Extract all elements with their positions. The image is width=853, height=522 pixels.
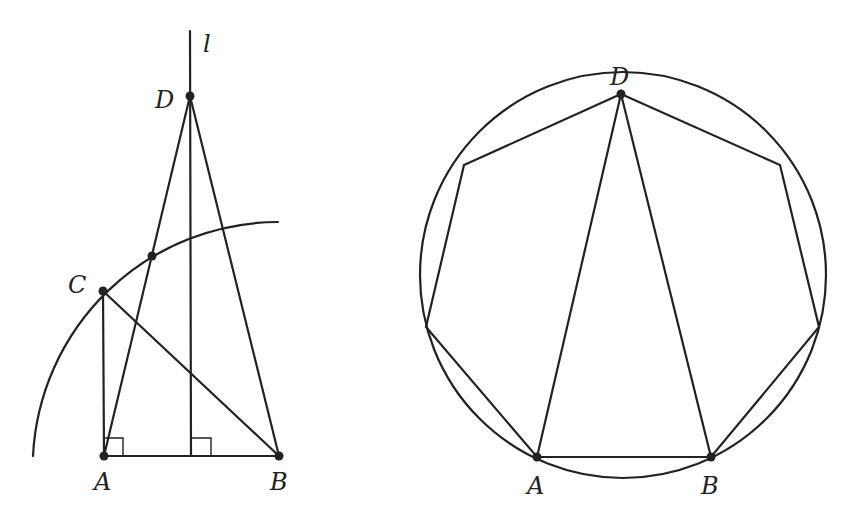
label-c: C [68, 271, 86, 299]
label-l: l [203, 30, 211, 58]
circumcircle [420, 72, 826, 478]
label-d: D [154, 86, 174, 114]
point-c [99, 287, 108, 296]
label-a: A [92, 468, 111, 496]
segment-db [621, 94, 711, 457]
label-b: B [700, 472, 719, 500]
segment-ac [103, 291, 104, 456]
left-figure: A B C D l [33, 30, 288, 496]
label-b: B [269, 468, 288, 496]
label-d: D [609, 63, 629, 91]
right-figure: D A B [420, 63, 826, 500]
point-b [275, 452, 284, 461]
segment-bd [190, 96, 279, 456]
point-d [186, 92, 195, 101]
point-a [533, 453, 542, 462]
segment-da [537, 94, 621, 457]
point-b [707, 453, 716, 462]
heptagon [426, 94, 819, 457]
right-angle-mark-l [191, 438, 211, 456]
segment-ad [104, 96, 190, 456]
point-arc-intersection [148, 252, 157, 261]
geometry-diagram: A B C D l D A B [0, 0, 853, 522]
label-a: A [525, 472, 544, 500]
point-a [100, 452, 109, 461]
